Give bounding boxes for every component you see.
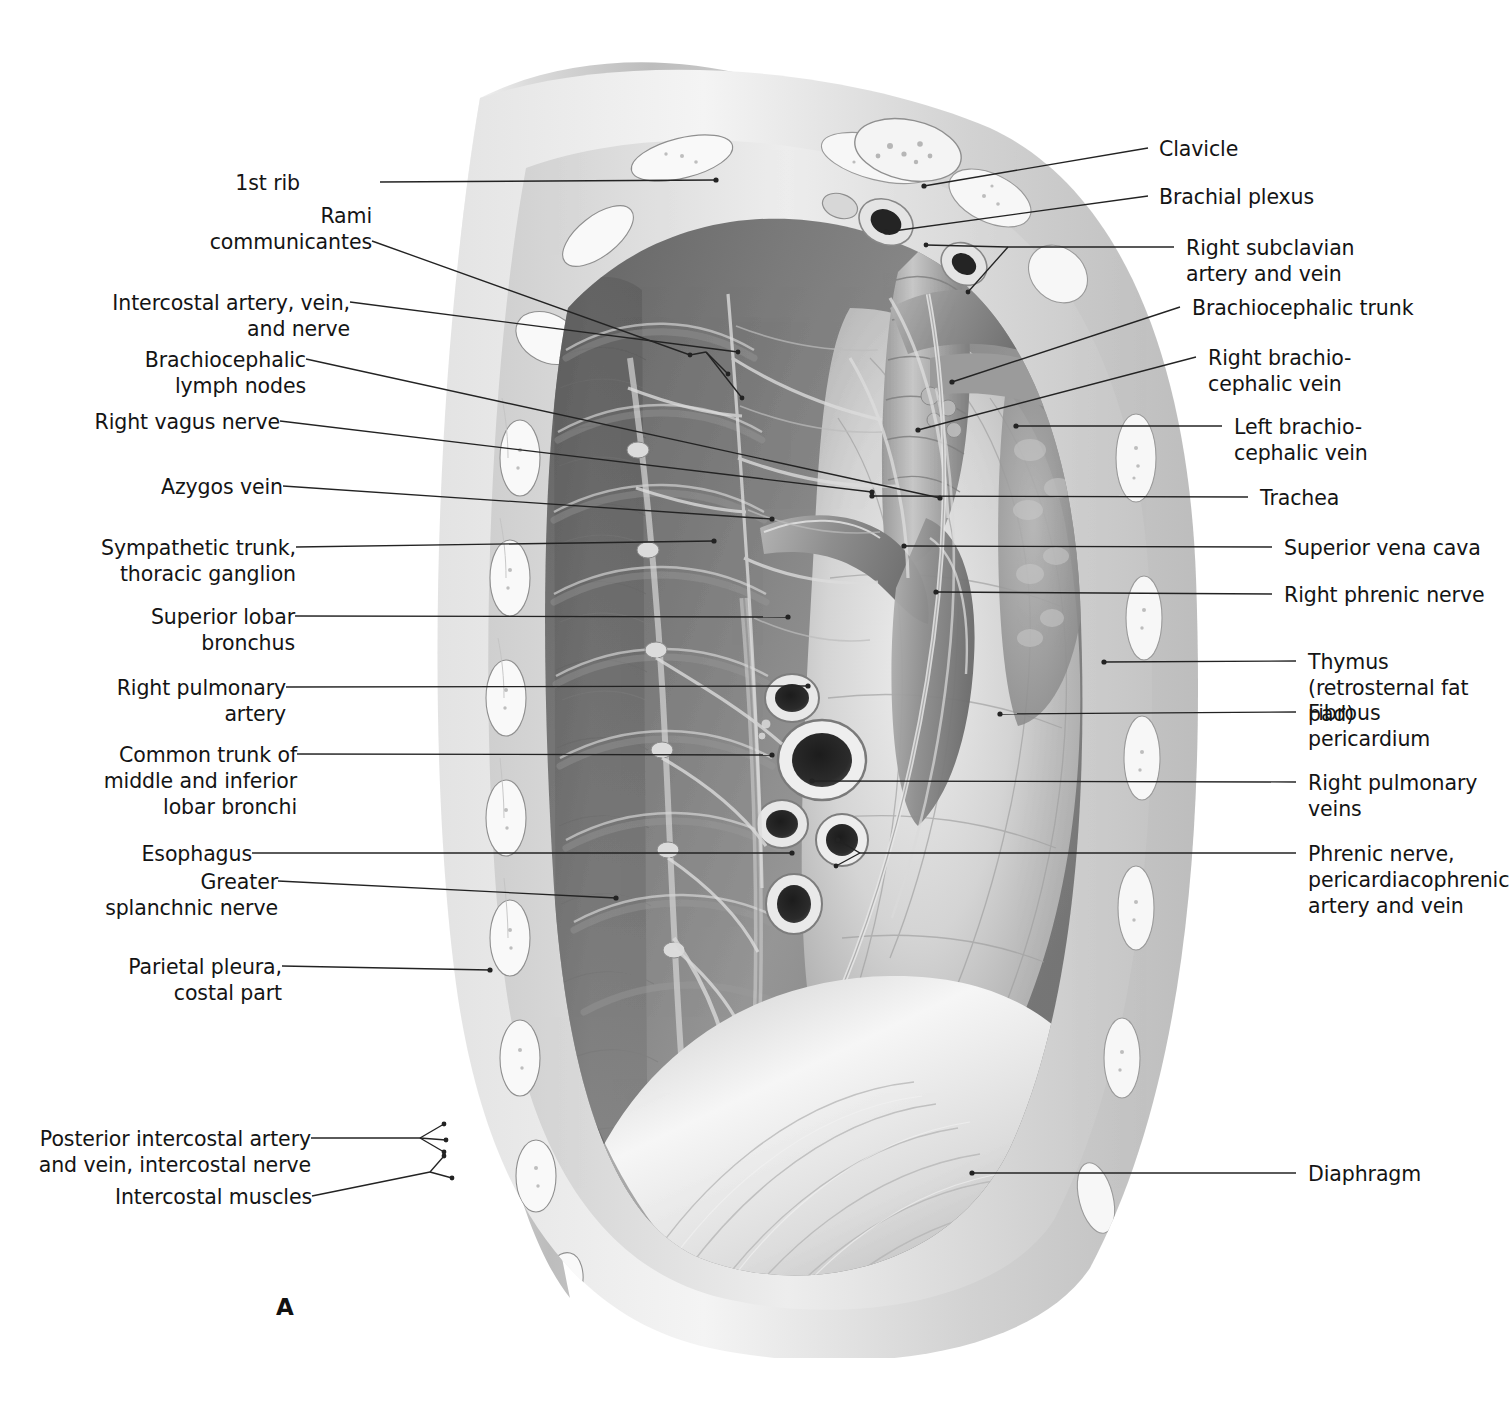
label-right-pulmonary-artery: Right pulmonary artery [117,675,286,727]
label-esophagus: Esophagus [141,841,252,867]
label-azygos-vein: Azygos vein [161,474,283,500]
label-brachial-plexus: Brachial plexus [1159,184,1314,210]
label-right-subclavian-vessels: Right subclavian artery and vein [1186,235,1355,287]
label-intercostal-muscles: Intercostal muscles [115,1184,312,1210]
label-posterior-intercostal-bundle: Posterior intercostal artery and vein, i… [39,1126,311,1178]
label-right-vagus-nerve: Right vagus nerve [95,409,280,435]
anatomical-plate: 1st rib Rami communicantes Intercostal a… [0,0,1509,1404]
panel-letter: A [276,1294,294,1320]
label-clavicle: Clavicle [1159,136,1238,162]
label-brachiocephalic-trunk: Brachiocephalic trunk [1192,295,1413,321]
thorax-illustration [330,58,1220,1358]
label-superior-vena-cava: Superior vena cava [1284,535,1481,561]
label-superior-lobar-bronchus: Superior lobar bronchus [151,604,295,656]
label-diaphragm: Diaphragm [1308,1161,1421,1187]
label-sympathetic-trunk: Sympathetic trunk, thoracic ganglion [101,535,296,587]
label-right-brachiocephalic-vein: Right brachio- cephalic vein [1208,345,1351,397]
label-first-rib: 1st rib [235,170,300,196]
label-common-trunk-lobar-bronchi: Common trunk of middle and inferior loba… [104,742,297,820]
label-parietal-pleura-costal-part: Parietal pleura, costal part [128,954,282,1006]
label-greater-splanchnic-nerve: Greater splanchnic nerve [105,869,278,921]
label-left-brachiocephalic-vein: Left brachio- cephalic vein [1234,414,1368,466]
label-fibrous-pericardium: Fibrous pericardium [1308,700,1430,752]
label-right-pulmonary-veins: Right pulmonary veins [1308,770,1477,822]
label-brachiocephalic-lymph-nodes: Brachiocephalic lymph nodes [145,347,306,399]
label-rami-communicantes: Rami communicantes [210,203,372,255]
label-phrenic-pericardiacophrenic: Phrenic nerve, pericardiacophrenic arter… [1308,841,1509,919]
label-trachea: Trachea [1260,485,1339,511]
label-right-phrenic-nerve: Right phrenic nerve [1284,582,1484,608]
label-intercostal-artery-vein-nerve: Intercostal artery, vein, and nerve [112,290,350,342]
